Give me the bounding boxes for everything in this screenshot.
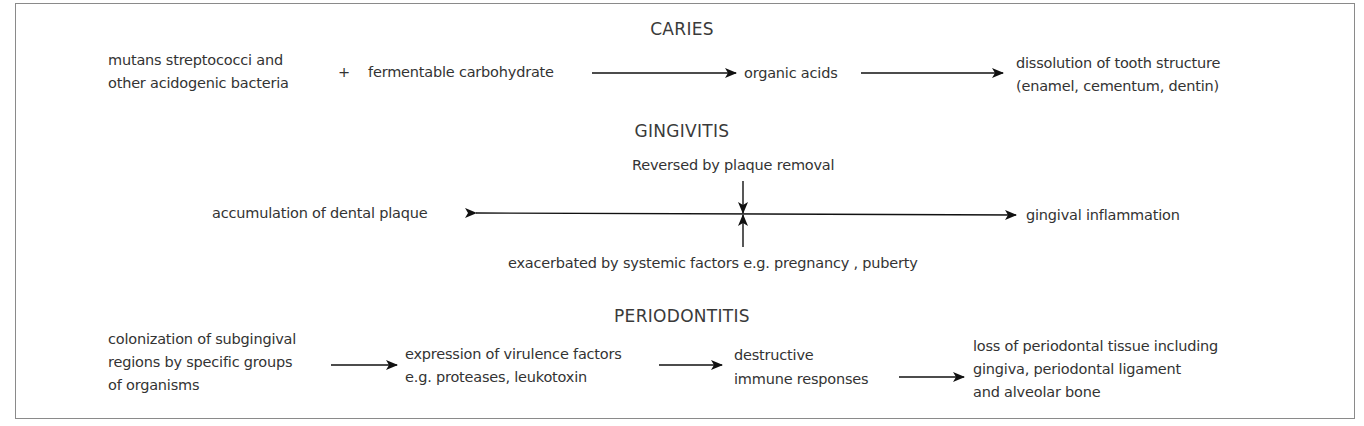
double-arrow-icon bbox=[476, 213, 1016, 215]
arrows-layer bbox=[0, 0, 1364, 426]
